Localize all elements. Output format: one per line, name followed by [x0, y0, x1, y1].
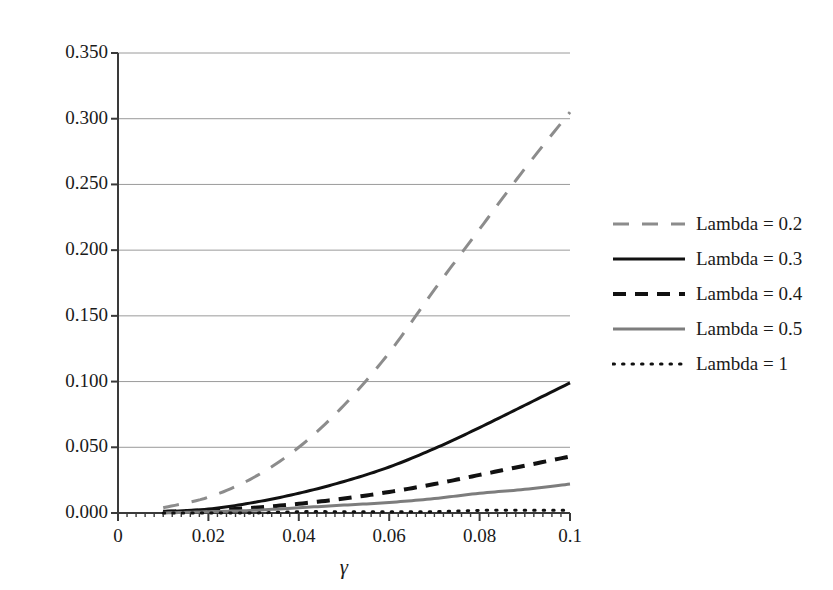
y-tick-label-2: 0.100 — [20, 370, 108, 392]
legend-item-1: Lambda = 0.3 — [612, 241, 833, 276]
legend-label-4: Lambda = 1 — [696, 353, 788, 375]
legend-swatch-0 — [612, 217, 686, 231]
legend-item-4: Lambda = 1 — [612, 346, 833, 381]
y-tick-label-4: 0.200 — [20, 238, 108, 260]
chart-legend: Lambda = 0.2Lambda = 0.3Lambda = 0.4Lamb… — [612, 206, 833, 381]
legend-item-0: Lambda = 0.2 — [612, 206, 833, 241]
x-tick-label-3: 0.06 — [349, 525, 429, 547]
x-tick-label-0: 0 — [78, 525, 158, 547]
legend-swatch-3 — [612, 322, 686, 336]
y-tick-label-6: 0.300 — [20, 107, 108, 129]
legend-swatch-4 — [612, 357, 686, 371]
y-tick-label-0: 0.000 — [20, 501, 108, 523]
x-axis-title: γ — [78, 555, 610, 580]
x-tick-label-1: 0.02 — [168, 525, 248, 547]
y-tick-label-7: 0.350 — [20, 41, 108, 63]
legend-label-3: Lambda = 0.5 — [696, 318, 802, 340]
legend-label-2: Lambda = 0.4 — [696, 283, 802, 305]
x-tick-label-5: 0.1 — [530, 525, 610, 547]
series-line-0 — [163, 112, 570, 508]
y-tick-label-3: 0.150 — [20, 304, 108, 326]
legend-item-2: Lambda = 0.4 — [612, 276, 833, 311]
legend-swatch-2 — [612, 287, 686, 301]
y-tick-label-1: 0.050 — [20, 435, 108, 457]
x-tick-label-2: 0.04 — [259, 525, 339, 547]
legend-label-0: Lambda = 0.2 — [696, 213, 802, 235]
chart-figure: 0.0000.0500.1000.1500.2000.2500.3000.350… — [0, 0, 833, 590]
legend-label-1: Lambda = 0.3 — [696, 248, 802, 270]
x-tick-label-4: 0.08 — [440, 525, 520, 547]
y-tick-label-5: 0.250 — [20, 172, 108, 194]
legend-item-3: Lambda = 0.5 — [612, 311, 833, 346]
legend-swatch-1 — [612, 252, 686, 266]
